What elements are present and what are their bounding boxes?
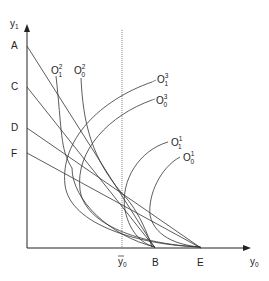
curve-label-O1-3: O31: [157, 72, 169, 87]
point-label-F: F: [11, 148, 17, 159]
point-label-A: A: [11, 40, 18, 51]
curve-label-O1-1: O11: [171, 135, 183, 150]
leader-O0-3: [152, 99, 155, 100]
x-axis-label: y0: [250, 256, 259, 268]
point-label-E: E: [197, 257, 204, 268]
line-F-E: [27, 153, 201, 248]
ybar-zero-label: y0: [118, 256, 127, 268]
curve-label-O0-1: O10: [183, 150, 195, 165]
curve-O0-1: [150, 157, 201, 247]
curve-O0-2: [81, 78, 152, 247]
point-label-C: C: [11, 81, 18, 92]
x-axis-arrow-icon: [243, 245, 251, 251]
curve-O1-2: [56, 76, 155, 247]
curve-O1-3: [65, 82, 200, 247]
diagram-canvas: y1 A C D F B E y0 y0 O21 O20 O31 O30 O11…: [0, 0, 269, 281]
y-axis-arrow-icon: [24, 24, 30, 32]
leader-O1-3: [152, 80, 156, 82]
curve-O0-3: [80, 100, 200, 247]
point-label-B: B: [152, 257, 159, 268]
curve-label-O0-2: O20: [74, 63, 86, 78]
curve-label-O1-2: O21: [51, 63, 63, 78]
curve-label-O0-3: O30: [156, 93, 168, 108]
point-label-D: D: [11, 122, 18, 133]
line-A-B: [27, 46, 155, 248]
line-C-B: [27, 87, 155, 248]
y-axis-label: y1: [10, 18, 19, 30]
